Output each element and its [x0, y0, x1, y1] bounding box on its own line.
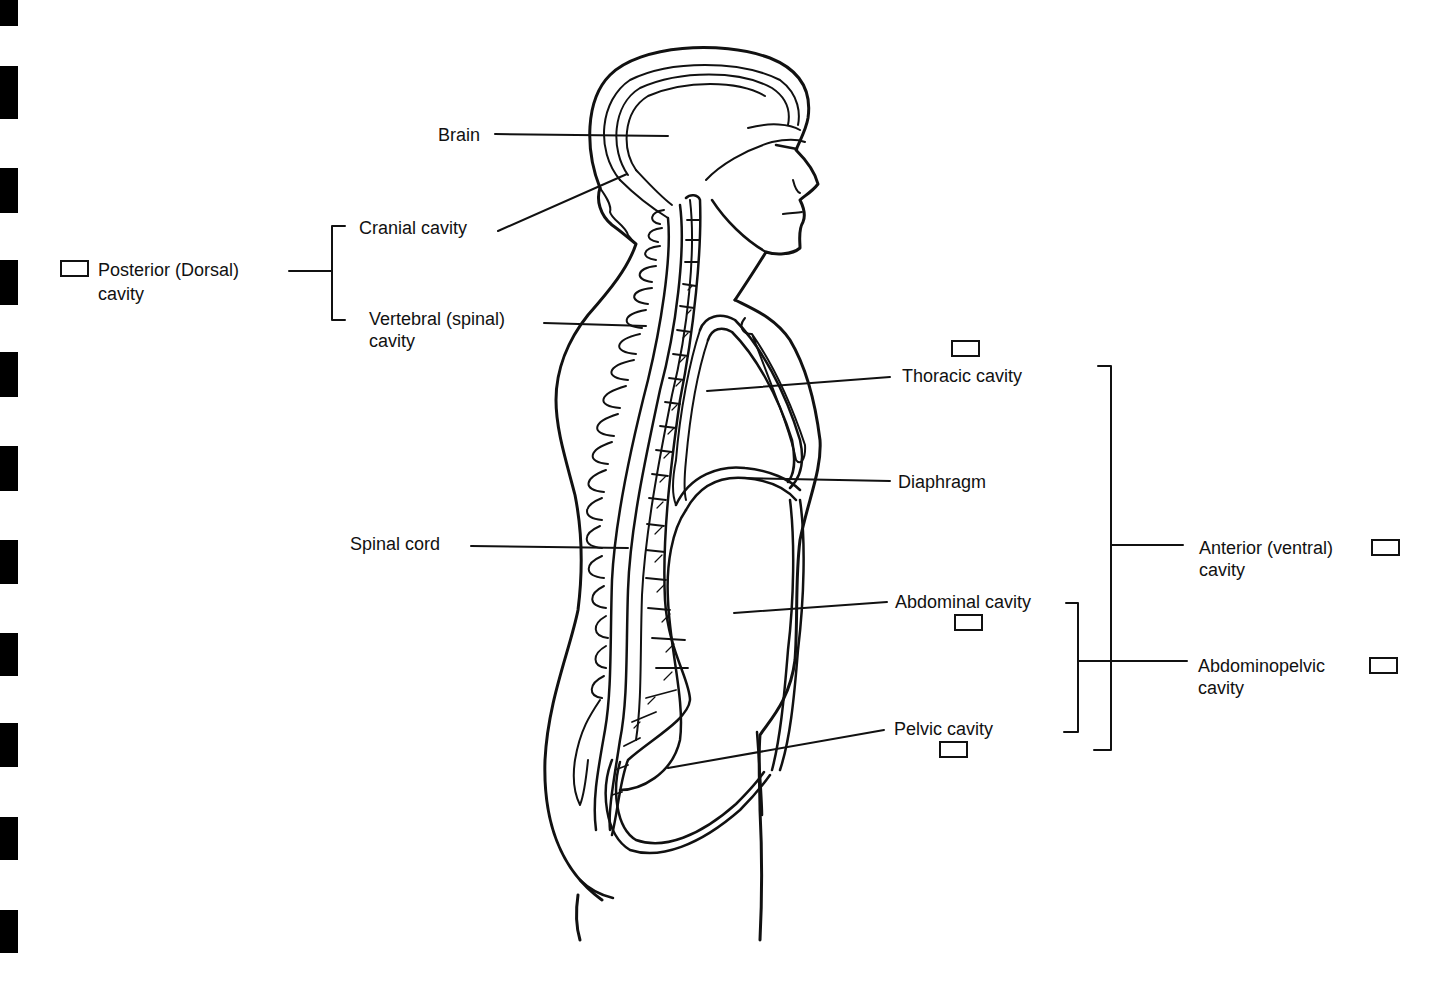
label-anterior-cavity-line1: Anterior (ventral): [1199, 537, 1333, 560]
checkbox-abdominopelvic-cavity[interactable]: [1369, 657, 1398, 674]
checkbox-thoracic-cavity[interactable]: [951, 340, 980, 357]
label-abdominopelvic-cavity-line2: cavity: [1198, 677, 1244, 700]
label-pelvic-cavity: Pelvic cavity: [894, 718, 993, 741]
checkbox-anterior-cavity[interactable]: [1371, 539, 1400, 556]
label-abdominopelvic-cavity-line1: Abdominopelvic: [1198, 655, 1325, 678]
checkbox-pelvic-cavity[interactable]: [939, 741, 968, 758]
label-thoracic-cavity: Thoracic cavity: [902, 365, 1022, 388]
checkbox-abdominal-cavity[interactable]: [954, 614, 983, 631]
label-posterior-cavity-line2: cavity: [98, 283, 144, 306]
body-sagittal-illustration: [0, 0, 1447, 985]
diagram-page: Brain Cranial cavity Posterior (Dorsal) …: [0, 0, 1447, 985]
label-anterior-cavity-line2: cavity: [1199, 559, 1245, 582]
label-brain: Brain: [438, 124, 480, 147]
label-diaphragm: Diaphragm: [898, 471, 986, 494]
checkbox-posterior-cavity[interactable]: [60, 260, 89, 277]
label-abdominal-cavity: Abdominal cavity: [895, 591, 1031, 614]
label-posterior-cavity-line1: Posterior (Dorsal): [98, 259, 239, 282]
label-spinal-cord: Spinal cord: [350, 533, 440, 556]
label-cranial-cavity: Cranial cavity: [359, 217, 467, 240]
label-vertebral-cavity-line1: Vertebral (spinal): [369, 308, 505, 331]
label-vertebral-cavity-line2: cavity: [369, 330, 415, 353]
